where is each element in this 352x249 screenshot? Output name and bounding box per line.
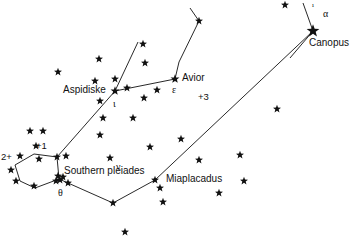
cluster-label-southern-pleiades: Southern pleiades (64, 166, 145, 176)
star-marker (16, 152, 24, 160)
constellation-line (115, 42, 138, 91)
star-marker (215, 189, 223, 197)
sky-canvas (0, 0, 352, 249)
star-marker (123, 84, 131, 92)
star-marker (159, 198, 167, 206)
constellation-line (113, 180, 155, 203)
star-marker (106, 154, 114, 162)
star-marker (62, 152, 70, 160)
star-marker (240, 177, 248, 185)
star-marker (140, 94, 148, 102)
star-chart: Canopus α ı Avior ε Aspidiske ι Southern… (0, 0, 352, 249)
star-marker (96, 131, 104, 139)
constellation-line (34, 154, 57, 157)
star-marker (26, 127, 34, 135)
star-marker (195, 156, 203, 164)
star-marker (281, 1, 289, 9)
star-marker (7, 166, 15, 174)
magnitude-key-two: 2+ (1, 152, 12, 162)
star-marker (35, 155, 43, 163)
constellation-line (115, 79, 175, 91)
star-marker (30, 182, 38, 190)
greek-label-alpha-canopus: α (323, 9, 328, 19)
star-marker (111, 86, 120, 95)
constellation-line-group (15, 3, 313, 203)
star-marker (109, 199, 117, 207)
star-marker (153, 86, 161, 94)
star-label-canopus: Canopus (309, 38, 349, 48)
star-label-avior: Avior (182, 73, 205, 83)
greek-label-theta-carinae: θ (58, 188, 63, 198)
constellation-line (155, 31, 313, 180)
star-marker (111, 75, 119, 83)
constellation-line (175, 8, 199, 79)
magnitude-key-one: +1 (36, 141, 47, 151)
magnitude-key-three: +3 (198, 92, 209, 102)
star-marker (121, 228, 129, 236)
constellation-line (57, 91, 115, 157)
star-marker (177, 135, 185, 143)
star-marker (39, 127, 47, 135)
star-marker (171, 74, 180, 83)
star-marker (236, 151, 244, 159)
star-marker (156, 184, 164, 192)
greek-label-epsilon-avior: ε (172, 85, 176, 95)
star-marker (146, 143, 154, 151)
star-marker (273, 105, 281, 113)
star-label-miaplacadus: Miaplacadus (166, 174, 222, 184)
star-marker (139, 40, 147, 48)
star-marker (99, 114, 107, 122)
star-label-aspidiske: Aspidiske (63, 85, 106, 95)
tick-label-canopus: ı (312, 2, 314, 9)
star-marker (96, 97, 104, 105)
star-marker (141, 59, 149, 67)
greek-label-iota-aspidiske: ι (113, 99, 116, 109)
star-marker (95, 55, 103, 63)
star-marker (195, 17, 203, 25)
greek-label-nu-carinae: ν (116, 162, 121, 172)
star-marker (54, 68, 62, 76)
star-marker (129, 114, 137, 122)
star-point-group (7, 1, 319, 236)
